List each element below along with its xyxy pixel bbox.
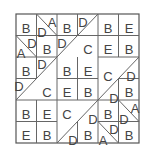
cell-label-r2c1-upper: D [37, 57, 46, 72]
cell-label-r4c4: B [104, 107, 113, 122]
cell-label-r4c3-lower: D [88, 112, 97, 127]
cell-label-r3c0-upper: D [14, 79, 23, 94]
cell-label-r3c3: B [84, 85, 93, 100]
cell-label-r2c2: B [63, 64, 72, 79]
cell-label-r5c4-upper: D [109, 122, 118, 137]
cell-label-r1c1: B [43, 42, 52, 57]
cell-label-r4c1: E [43, 107, 52, 122]
cell-label-r4c5-lower: D [119, 112, 128, 127]
cell-label-block-a: C [83, 42, 92, 57]
cell-label-r2c3: E [84, 64, 93, 79]
cell-label-r2c5-lower: D [126, 69, 135, 84]
cell-label-r0c1-upper: A [48, 15, 57, 30]
puzzle-board: BDABDBEDABDCEBBDBECDDCEBDBBECDBADEBDBDAB [0, 0, 147, 158]
cell-label-r5c1: B [43, 128, 52, 143]
cell-label-r2c0: B [22, 64, 31, 79]
cell-label-r4c5-upper: A [131, 101, 140, 116]
cell-label-r0c2: B [63, 21, 72, 36]
cell-label-r1c0-upper: D [27, 36, 36, 51]
cell-label-r5c2-lower: D [68, 133, 77, 148]
cell-label-r5c5: B [125, 128, 134, 143]
cell-label-r0c5: E [125, 21, 134, 36]
cell-label-r5c0: E [22, 128, 31, 143]
cell-label-r1c5: B [125, 42, 134, 57]
cell-label-r3c2: E [63, 85, 72, 100]
cell-label-r4c0: B [22, 107, 31, 122]
cell-label-r0c1-lower: D [37, 25, 46, 40]
cell-label-r1c2-upper: D [57, 36, 66, 51]
cell-label-r0c3-upper: D [78, 15, 87, 30]
cell-label-block-d: C [62, 107, 71, 122]
cell-label-r5c3: B [84, 128, 93, 143]
cell-label-r3c5: B [125, 85, 134, 100]
cell-label-block-b: C [103, 69, 112, 84]
cell-label-r0c0: B [22, 21, 31, 36]
cell-label-r0c4: B [104, 21, 113, 36]
cell-label-r5c4-lower: A [99, 133, 108, 148]
cell-label-r3c4-lower: D [109, 91, 118, 106]
cell-label-block-c: C [42, 85, 51, 100]
cell-label-r1c4: E [104, 42, 113, 57]
cell-label-r1c0-lower: A [17, 46, 26, 61]
